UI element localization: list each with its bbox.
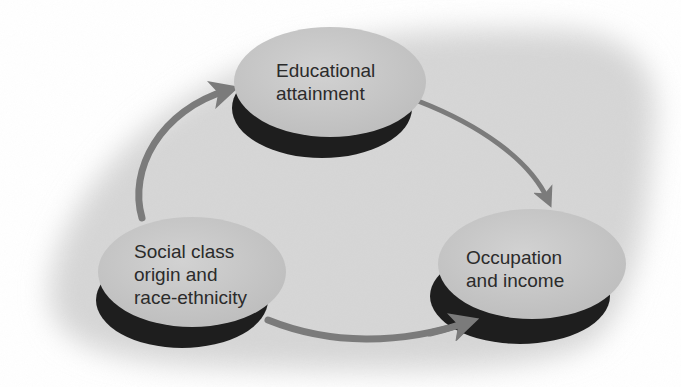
node-occupation-label: Occupation and income [466,246,564,292]
node-origin-line-1: Social class [134,240,247,263]
node-education-label: Educational attainment [276,59,375,105]
diagram-canvas: Educational attainment Social class orig… [0,0,681,387]
node-origin-label: Social class origin and race-ethnicity [134,240,247,309]
node-origin-line-3: race-ethnicity [134,286,247,309]
node-education-line-1: Educational [276,59,375,82]
node-occupation-line-1: Occupation [466,246,564,269]
node-origin-line-2: origin and [134,263,247,286]
node-occupation-line-2: and income [466,269,564,292]
node-education-line-2: attainment [276,82,375,105]
